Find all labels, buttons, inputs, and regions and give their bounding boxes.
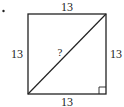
square-diagonal-diagram: 13 13 13 13 ? bbox=[0, 0, 124, 107]
bottom-side-label: 13 bbox=[61, 95, 73, 107]
top-side-label: 13 bbox=[61, 0, 73, 14]
right-angle-marker-icon bbox=[99, 87, 106, 94]
bullet-dot bbox=[2, 10, 4, 12]
diagonal-line bbox=[28, 14, 106, 94]
diagonal-label: ? bbox=[58, 46, 63, 58]
left-side-label: 13 bbox=[11, 47, 23, 61]
right-side-label: 13 bbox=[110, 47, 122, 61]
